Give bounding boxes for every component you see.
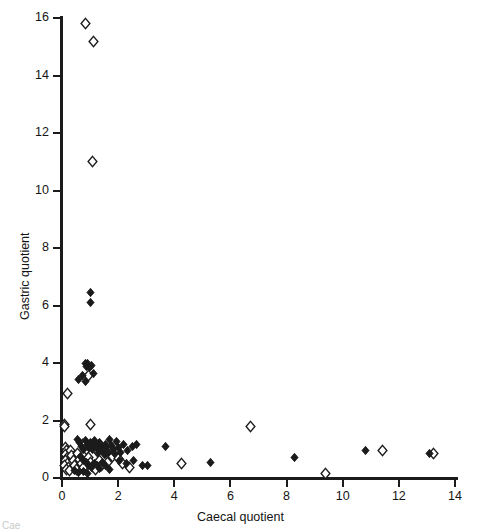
y-tick-8 (53, 247, 60, 249)
y-tick-label-4: 4 (19, 356, 49, 369)
data-point-filled-diamond (81, 377, 90, 386)
y-tick-12 (53, 132, 60, 134)
data-point-open-diamond (377, 445, 388, 456)
y-tick-label-0: 0 (19, 471, 49, 484)
y-tick-14 (53, 75, 60, 77)
data-point-filled-diamond (132, 440, 141, 449)
data-point-open-diamond (80, 18, 91, 29)
y-tick-label-14: 14 (19, 69, 49, 82)
x-tick-14 (454, 480, 456, 487)
data-point-open-diamond (62, 388, 73, 399)
data-point-open-diamond (87, 156, 98, 167)
x-tick-label-4: 4 (159, 490, 189, 503)
y-tick-label-12: 12 (19, 126, 49, 139)
x-tick-label-8: 8 (272, 490, 302, 503)
data-point-filled-diamond (161, 442, 170, 451)
data-point-filled-diamond (83, 469, 92, 478)
x-tick-4 (173, 480, 175, 487)
figure-caption-partial: Cae (0, 520, 481, 531)
y-tick-10 (53, 190, 60, 192)
x-tick-label-6: 6 (215, 490, 245, 503)
x-tick-8 (286, 480, 288, 487)
y-tick-6 (53, 305, 60, 307)
x-tick-6 (229, 480, 231, 487)
data-point-filled-diamond (290, 453, 299, 462)
y-tick-0 (53, 477, 60, 479)
x-tick-label-0: 0 (47, 490, 77, 503)
data-point-filled-diamond (86, 298, 95, 307)
data-point-filled-diamond (105, 465, 114, 474)
plot-area (62, 18, 455, 478)
x-tick-label-12: 12 (384, 490, 414, 503)
data-point-open-diamond (59, 421, 70, 432)
y-tick-label-16: 16 (19, 11, 49, 24)
x-tick-0 (61, 480, 63, 487)
data-point-open-diamond (85, 419, 96, 430)
x-tick-label-14: 14 (440, 490, 470, 503)
y-tick-4 (53, 362, 60, 364)
data-point-filled-diamond (86, 288, 95, 297)
data-point-open-diamond (320, 468, 331, 479)
y-tick-label-10: 10 (19, 184, 49, 197)
data-point-filled-diamond (206, 458, 215, 467)
x-tick-10 (342, 480, 344, 487)
y-tick-label-2: 2 (19, 414, 49, 427)
y-tick-16 (53, 17, 60, 19)
data-point-filled-diamond (143, 461, 152, 470)
data-point-open-diamond (88, 36, 99, 47)
data-point-open-diamond (245, 421, 256, 432)
scatter-chart-figure: 024681012141602468101214 Caecal quotient… (0, 0, 481, 531)
data-point-filled-diamond (361, 446, 370, 455)
x-tick-2 (117, 480, 119, 487)
data-point-filled-diamond (89, 369, 98, 378)
data-point-open-diamond (176, 458, 187, 469)
x-tick-12 (398, 480, 400, 487)
x-tick-label-2: 2 (103, 490, 133, 503)
y-axis-label: Gastric quotient (18, 232, 32, 320)
data-point-filled-diamond (425, 449, 434, 458)
x-tick-label-10: 10 (328, 490, 358, 503)
